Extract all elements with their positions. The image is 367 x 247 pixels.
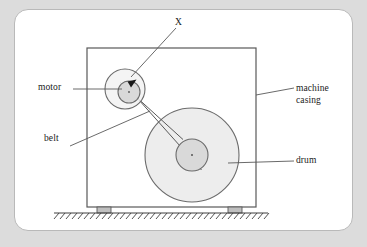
label-machine-casing-line1: machine (296, 83, 329, 95)
machine-diagram (0, 0, 367, 247)
label-machine-casing-line2: casing (296, 95, 329, 107)
machine-casing-leader-line (256, 88, 294, 95)
label-motor: motor (38, 82, 61, 94)
label-machine-casing: machine casing (296, 83, 329, 106)
label-drum: drum (296, 155, 316, 167)
label-belt: belt (44, 133, 59, 145)
foot-left-rect (97, 207, 111, 213)
ground-hatching (54, 213, 269, 219)
diagram-page: motor belt X machine casing drum (0, 0, 367, 247)
drum-hub-center-dot (191, 154, 193, 156)
motor-pulley-center-dot (128, 91, 130, 93)
label-point-x: X (175, 17, 182, 29)
foot-right-rect (228, 207, 242, 213)
